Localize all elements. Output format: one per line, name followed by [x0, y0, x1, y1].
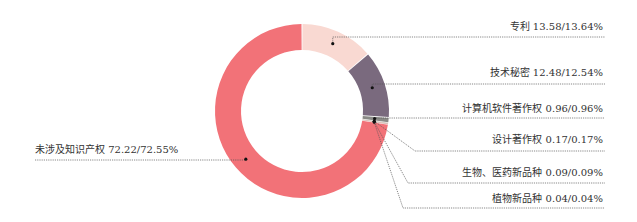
- label-plant-variety: 植物新品种 0.04/0.04%: [492, 192, 603, 204]
- label-trade-secret: 技术秘密 12.48/12.54%: [490, 66, 603, 78]
- leader-line-no-ip: [35, 159, 246, 160]
- label-no-ip: 未涉及知识产权 72.22/72.55%: [35, 143, 178, 155]
- label-patent: 专利 13.58/13.64%: [510, 20, 603, 32]
- slices-group: [215, 24, 389, 198]
- label-design-copyright: 设计著作权 0.17/0.17%: [492, 133, 603, 145]
- donut-chart: 专利 13.58/13.64% 技术秘密 12.48/12.54% 计算机软件著…: [0, 0, 637, 222]
- leader-dot-plant-variety: [373, 120, 376, 123]
- leader-line-patent: [333, 37, 605, 44]
- leader-dot-patent: [331, 42, 334, 45]
- leader-line-trade-secret: [372, 84, 605, 88]
- leader-line-software-copyright: [375, 118, 605, 119]
- leader-dot-no-ip: [244, 158, 247, 161]
- leader-dot-trade-secret: [371, 86, 374, 89]
- label-software-copyright: 计算机软件著作权 0.96/0.96%: [462, 102, 603, 114]
- label-bio-pharma-variety: 生物、医药新品种 0.09/0.09%: [462, 166, 603, 178]
